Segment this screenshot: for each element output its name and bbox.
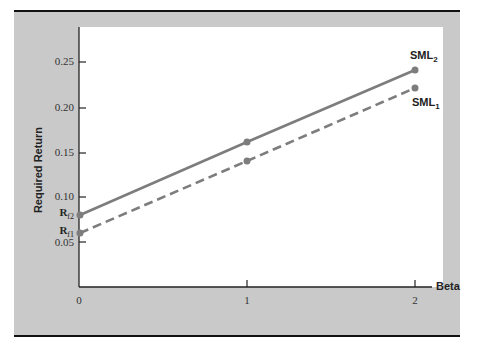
ytick-label: 0.25 [34, 55, 74, 67]
sml2-label: SML2 [410, 49, 438, 64]
x-ticks [247, 280, 415, 287]
y-axis-title: Required Return [32, 127, 44, 213]
xtick-label: 1 [237, 294, 257, 306]
xtick-label: 0 [69, 294, 89, 306]
ytick-label: 0.20 [34, 101, 74, 113]
data-points [77, 67, 419, 237]
x-axis-title: Beta [436, 280, 460, 292]
xtick-label: 2 [405, 294, 425, 306]
rf1-label: Rf1 [44, 224, 74, 239]
rf2-label: Rf2 [44, 206, 74, 221]
sml1-label: SML1 [412, 96, 440, 111]
